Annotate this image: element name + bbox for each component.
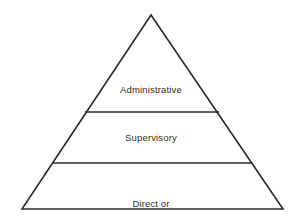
tier-label-supervisory: Supervisory: [0, 132, 302, 145]
tier-label-direct-face-to-face: Direct or Face-to-Face: [0, 173, 302, 222]
tier-label-direct-line1: Direct or: [0, 198, 302, 211]
pyramid-figure: Administrative Supervisory Direct or Fac…: [0, 0, 302, 222]
tier-label-administrative: Administrative: [0, 84, 302, 97]
